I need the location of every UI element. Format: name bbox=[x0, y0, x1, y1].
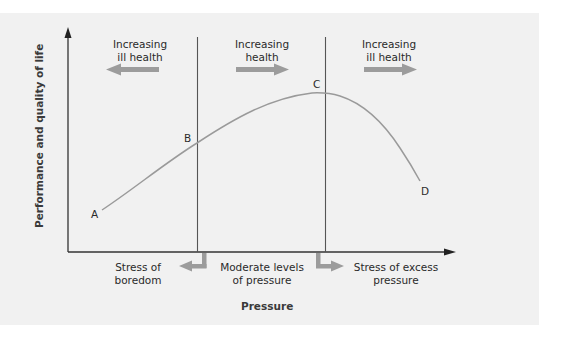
zone-top-label-right: Increasing ill health bbox=[349, 38, 429, 64]
zone-bottom-left-line1: Stress of bbox=[98, 261, 178, 274]
x-axis bbox=[68, 249, 456, 256]
zone-top-left-line1: Increasing bbox=[100, 38, 180, 51]
zone-top-right-line1: Increasing bbox=[349, 38, 429, 51]
point-label-a: A bbox=[91, 208, 98, 220]
arrow-right-health-icon bbox=[236, 64, 289, 76]
y-axis-arrowhead-icon bbox=[65, 27, 72, 38]
point-label-d: D bbox=[421, 185, 429, 197]
arrow-bent-left-icon bbox=[179, 253, 207, 272]
y-axis bbox=[65, 27, 72, 252]
zone-top-left-line2: ill health bbox=[100, 51, 180, 64]
zone-bottom-middle-line1: Moderate levels bbox=[212, 261, 312, 274]
y-axis-label: Performance and quality of life bbox=[33, 66, 45, 228]
zone-bottom-middle-line2: of pressure bbox=[212, 274, 312, 287]
zone-bottom-right-line2: pressure bbox=[344, 274, 448, 287]
performance-curve bbox=[102, 93, 420, 210]
arrow-bent-right-icon bbox=[316, 253, 344, 272]
arrow-left-ill-health-icon bbox=[106, 64, 159, 76]
point-label-b: B bbox=[184, 132, 191, 144]
zone-top-label-left: Increasing ill health bbox=[100, 38, 180, 64]
x-axis-label: Pressure bbox=[241, 300, 293, 312]
zone-bottom-label-right: Stress of excess pressure bbox=[344, 261, 448, 287]
x-axis-arrowhead-icon bbox=[444, 249, 456, 256]
zone-bottom-label-left: Stress of boredom bbox=[98, 261, 178, 287]
zone-top-middle-line1: Increasing bbox=[222, 38, 302, 51]
point-label-c: C bbox=[313, 78, 320, 90]
zone-top-middle-line2: health bbox=[222, 51, 302, 64]
zone-top-right-line2: ill health bbox=[349, 51, 429, 64]
zone-bottom-left-line2: boredom bbox=[98, 274, 178, 287]
arrow-right-ill-health-icon bbox=[364, 64, 417, 76]
zone-bottom-right-line1: Stress of excess bbox=[344, 261, 448, 274]
zone-top-label-middle: Increasing health bbox=[222, 38, 302, 64]
zone-bottom-label-middle: Moderate levels of pressure bbox=[212, 261, 312, 287]
